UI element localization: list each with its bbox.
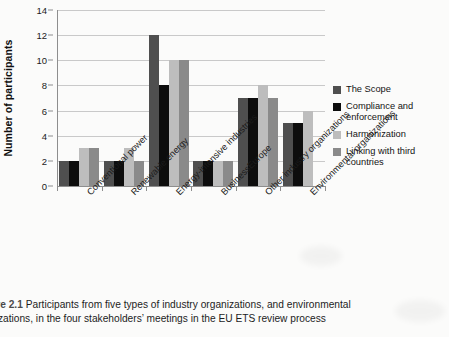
legend-swatch-icon	[333, 131, 341, 139]
y-tick-label-0: 0	[42, 181, 47, 192]
scan-artifact	[300, 246, 342, 266]
bar	[79, 148, 89, 186]
x-tick-mark	[280, 186, 281, 191]
y-tick-mark-6	[48, 110, 53, 111]
legend-item[interactable]: Compliance and enforcement	[333, 101, 447, 123]
bar	[179, 60, 189, 186]
legend-swatch-icon	[333, 148, 341, 156]
plot-area: 02468101214	[57, 10, 325, 186]
bar	[213, 161, 223, 186]
figure-number: ure 2.1	[0, 299, 23, 310]
caption-line-1: Participants from five types of industry…	[26, 299, 351, 310]
figure-container: Number of participants 02468101214 Conve…	[0, 0, 449, 337]
y-tick-mark-12	[48, 35, 53, 36]
y-tick-mark-0	[48, 186, 53, 187]
y-tick-label-2: 2	[42, 155, 47, 166]
y-tick-mark-10	[48, 60, 53, 61]
y-tick-label-10: 10	[36, 55, 47, 66]
legend-swatch-icon	[333, 86, 341, 94]
legend-label: Harmonization	[346, 129, 406, 140]
caption-line-2: nizations, in the four stakeholders’ mee…	[0, 313, 326, 324]
bar	[268, 98, 278, 186]
y-axis-title: Number of participants	[2, 10, 16, 186]
figure-caption: ure 2.1 Participants from five types of …	[0, 298, 448, 326]
bar-group	[57, 10, 102, 186]
y-tick-label-4: 4	[42, 130, 47, 141]
legend-swatch-icon	[333, 103, 341, 111]
y-tick-mark-2	[48, 160, 53, 161]
legend-label: Compliance and enforcement	[346, 101, 447, 123]
legend-item[interactable]: Linking with third countries	[333, 146, 447, 168]
y-tick-label-14: 14	[36, 5, 47, 16]
bar-groups	[57, 10, 325, 186]
x-tick-mark	[146, 186, 147, 191]
bar	[258, 85, 268, 186]
bar	[169, 60, 179, 186]
bar	[59, 161, 69, 186]
y-tick-mark-14	[48, 10, 53, 11]
y-tick-label-6: 6	[42, 105, 47, 116]
y-tick-label-8: 8	[42, 80, 47, 91]
y-axis-ticks: 02468101214	[21, 10, 53, 186]
y-tick-mark-4	[48, 135, 53, 136]
x-tick-mark	[57, 186, 58, 191]
y-tick-mark-8	[48, 85, 53, 86]
legend-label: Linking with third countries	[346, 146, 447, 168]
legend-item[interactable]: Harmonization	[333, 129, 447, 140]
legend-item[interactable]: The Scope	[333, 84, 447, 95]
legend-label: The Scope	[346, 84, 391, 95]
y-tick-label-12: 12	[36, 30, 47, 41]
bar	[69, 161, 79, 186]
chart-legend: The ScopeCompliance and enforcementHarmo…	[333, 84, 447, 174]
